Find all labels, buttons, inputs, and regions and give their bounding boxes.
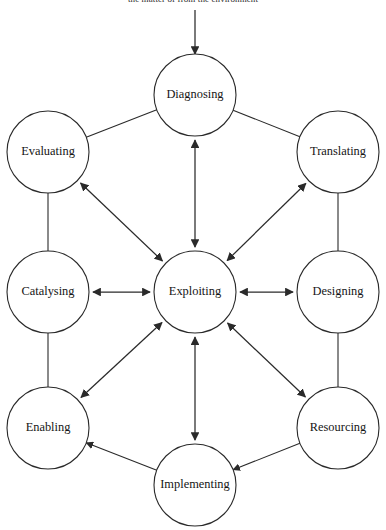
diagram-root: the matter of from the environment Explo… [0,0,386,530]
node-label-resourcing: Resourcing [310,420,366,434]
node-label-catalysing: Catalysing [22,284,75,298]
node-exploiting[interactable]: Exploiting [154,251,236,333]
node-label-translating: Translating [310,144,366,158]
link-evaluating-to-diagnosing [86,110,157,137]
link-resourcing-to-implementing [233,443,300,470]
wheel-diagram: ExploitingDiagnosingTranslatingDesigning… [0,0,386,530]
node-label-enabling: Enabling [26,420,71,434]
node-resourcing[interactable]: Resourcing [297,387,379,469]
node-enabling[interactable]: Enabling [7,387,89,469]
node-diagnosing[interactable]: Diagnosing [154,54,236,136]
nodes-group: ExploitingDiagnosingTranslatingDesigning… [7,54,379,526]
node-designing[interactable]: Designing [297,251,379,333]
node-evaluating[interactable]: Evaluating [7,111,89,193]
link-enabling-to-exploiting [81,323,162,398]
node-translating[interactable]: Translating [297,111,379,193]
node-catalysing[interactable]: Catalysing [7,251,89,333]
link-translating-to-exploiting [227,183,306,260]
node-label-exploiting: Exploiting [169,284,221,298]
node-implementing[interactable]: Implementing [154,444,236,526]
node-label-designing: Designing [313,284,364,298]
node-label-diagnosing: Diagnosing [166,87,223,101]
link-implementing-to-enabling [86,443,157,470]
node-label-implementing: Implementing [160,477,230,491]
link-diagnosing-to-translating [233,110,300,137]
link-evaluating-to-exploiting [81,183,163,261]
node-label-evaluating: Evaluating [21,144,75,158]
link-resourcing-to-exploiting [228,323,306,397]
